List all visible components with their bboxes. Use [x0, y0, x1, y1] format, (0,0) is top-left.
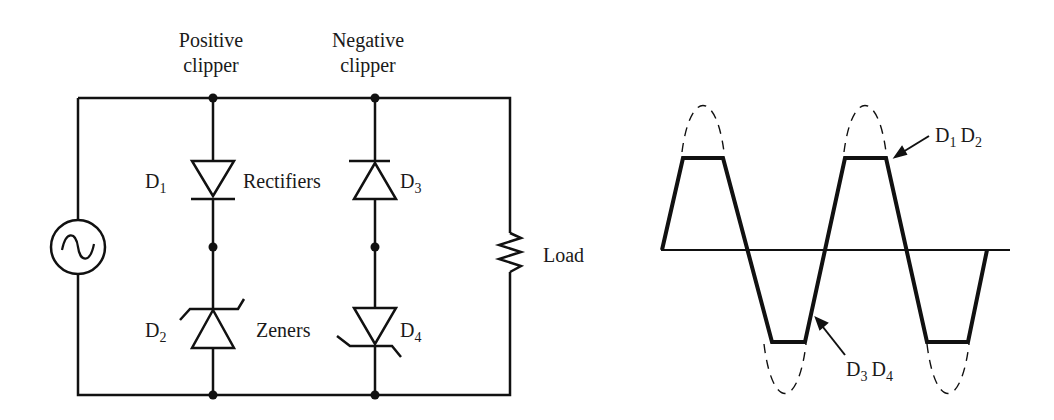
- circuit: [51, 98, 521, 395]
- d4-label: D4: [400, 319, 421, 345]
- d1-d2-clip-label: D1D2: [935, 124, 982, 150]
- rectifiers-label: Rectifiers: [243, 170, 321, 192]
- positive-clipper-label-line1: Positive: [179, 29, 244, 51]
- d4-zener-icon: [337, 308, 401, 357]
- annotation-arrows: [816, 136, 929, 355]
- d1-label: D1: [145, 170, 166, 196]
- negative-clipper-label-line1: Negative: [332, 29, 404, 52]
- waveform: D1D2 D3D4: [661, 106, 1010, 394]
- d3-rectifier-icon: [354, 163, 396, 199]
- ac-source-icon: [51, 220, 105, 274]
- negative-clipper-label-line2: clipper: [340, 54, 396, 77]
- positive-clipper-label-line2: clipper: [183, 54, 239, 77]
- junction-dots: [209, 94, 380, 400]
- top-wire: [78, 98, 510, 233]
- load-label: Load: [543, 244, 584, 266]
- d3-d4-clip-label: D3D4: [846, 358, 893, 384]
- d2-label: D2: [145, 319, 166, 345]
- resistor-icon: [499, 233, 521, 272]
- negative-clipper-branch: [337, 98, 401, 395]
- clipper-diagram: Positive clipper Negative clipper D1 Rec…: [0, 0, 1054, 420]
- zeners-label: Zeners: [256, 319, 311, 341]
- d3-label: D3: [400, 170, 421, 196]
- d1-rectifier-icon: [192, 161, 234, 196]
